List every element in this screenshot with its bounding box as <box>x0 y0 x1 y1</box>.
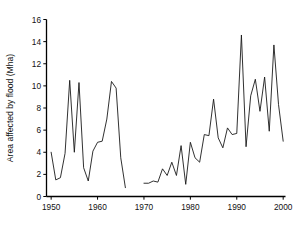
y-axis-title: Area affected by flood (Mha) <box>5 54 15 162</box>
x-tick-label-1990: 1990 <box>228 202 247 212</box>
y-tick-label-2: 2 <box>36 169 41 179</box>
y-tick-label-4: 4 <box>36 147 41 157</box>
chart-canvas: 0246810121416 195019601970198019902000 A… <box>0 0 295 230</box>
x-tick-label-1970: 1970 <box>135 202 154 212</box>
flood-area-line-chart: 0246810121416 195019601970198019902000 A… <box>0 0 295 230</box>
y-tick-label-14: 14 <box>32 37 42 47</box>
x-tick-label-1950: 1950 <box>42 202 61 212</box>
y-tick-label-6: 6 <box>36 125 41 135</box>
x-tick-label-2000: 2000 <box>274 202 293 212</box>
y-tick-label-8: 8 <box>36 103 41 113</box>
y-tick-label-10: 10 <box>32 81 42 91</box>
y-tick-label-0: 0 <box>36 192 41 202</box>
x-tick-label-1960: 1960 <box>88 202 107 212</box>
y-tick-label-12: 12 <box>32 59 42 69</box>
y-tick-label-16: 16 <box>32 15 42 25</box>
x-tick-label-1980: 1980 <box>181 202 200 212</box>
chart-background <box>0 0 295 230</box>
